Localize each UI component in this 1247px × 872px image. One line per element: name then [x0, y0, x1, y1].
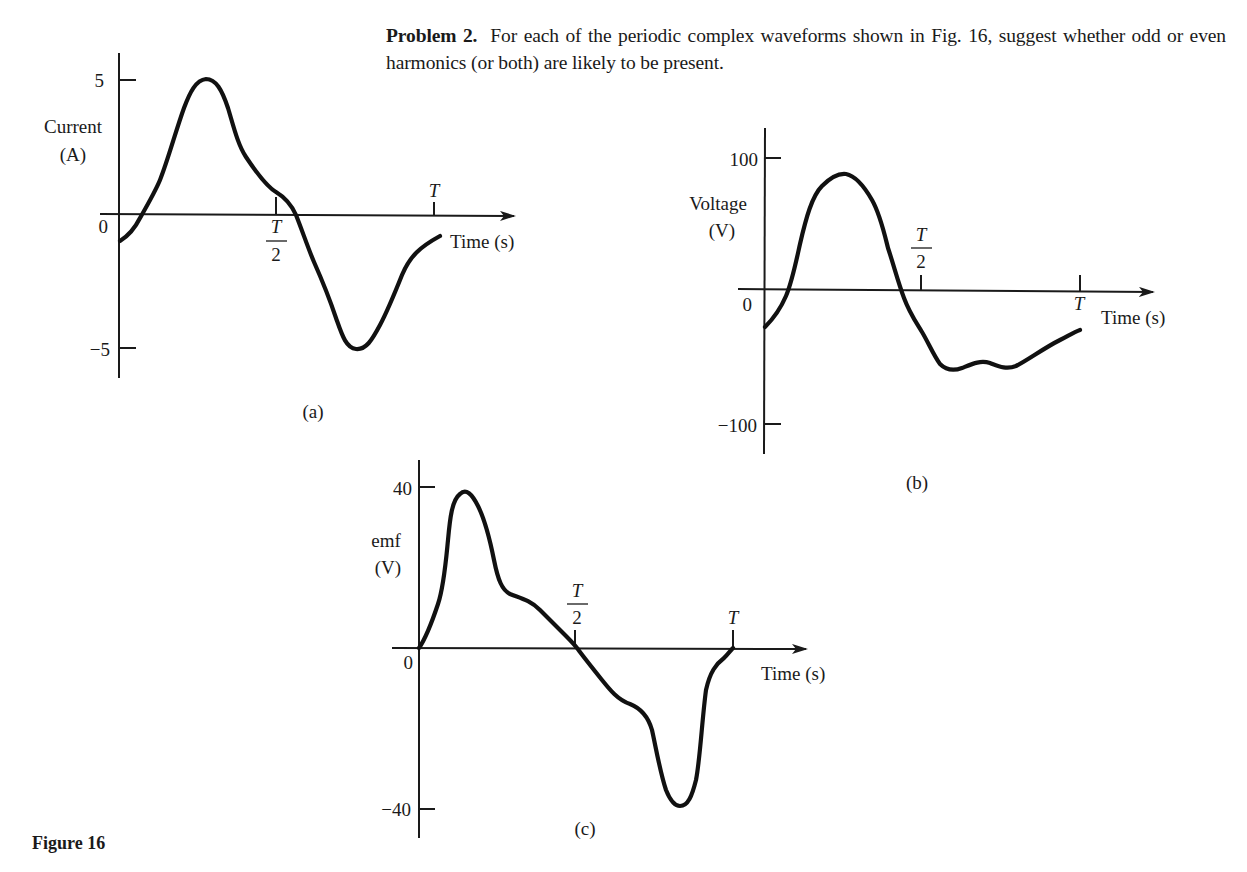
chart-a-caption: (a): [302, 401, 323, 423]
figure-caption: Figure 16: [32, 833, 105, 854]
chart-a-origin-label: 0: [99, 216, 109, 237]
chart-b: 100 −100 0 Voltage (V) T 2 T Time (s) (b…: [689, 128, 1165, 494]
figure-16: 5 −5 0 Current (A) T 2 T Time (s) (a) 10…: [0, 0, 1247, 872]
chart-b-period-label: T: [1074, 293, 1086, 314]
chart-b-x-axis: [738, 289, 1153, 292]
chart-a-x-axis: [100, 214, 514, 216]
chart-b-ytick-neg100-label: −100: [718, 415, 757, 436]
chart-a-xlabel: Time (s): [450, 231, 514, 253]
chart-a: 5 −5 0 Current (A) T 2 T Time (s) (a): [44, 53, 514, 423]
chart-c-ylabel-line1: emf: [371, 530, 401, 551]
chart-a-half-period-num: T: [271, 216, 283, 237]
chart-c-x-axis: [392, 648, 806, 649]
chart-b-xlabel: Time (s): [1101, 307, 1165, 329]
chart-c: 40 −40 0 emf (V) T 2 T Time (s) (c): [371, 460, 825, 840]
chart-c-xlabel: Time (s): [761, 663, 825, 685]
chart-b-half-period-num: T: [916, 224, 928, 245]
chart-a-ytick-5-label: 5: [95, 70, 105, 91]
chart-c-ytick-neg40-label: −40: [381, 799, 411, 820]
chart-c-ylabel-line2: (V): [375, 557, 401, 579]
chart-b-origin-label: 0: [743, 294, 753, 315]
chart-b-ytick-100-label: 100: [730, 149, 759, 170]
chart-c-period-label: T: [728, 607, 740, 628]
chart-b-y-axis: [764, 128, 765, 454]
chart-b-half-period-den: 2: [916, 251, 926, 272]
chart-b-ylabel-line2: (V): [709, 220, 735, 242]
chart-b-ylabel-line1: Voltage: [689, 193, 747, 214]
chart-c-half-period-num: T: [572, 580, 584, 601]
chart-a-ylabel-line2: (A): [60, 144, 86, 166]
chart-a-half-period-den: 2: [271, 244, 281, 265]
chart-a-ylabel-line1: Current: [44, 116, 103, 137]
chart-c-half-period-den: 2: [572, 607, 582, 628]
chart-c-ytick-40-label: 40: [393, 478, 412, 499]
chart-c-origin-label: 0: [404, 652, 414, 673]
chart-b-caption: (b): [906, 472, 928, 494]
chart-c-caption: (c): [574, 818, 595, 840]
chart-a-period-label: T: [429, 180, 441, 201]
chart-a-ytick-neg5-label: −5: [90, 339, 110, 360]
